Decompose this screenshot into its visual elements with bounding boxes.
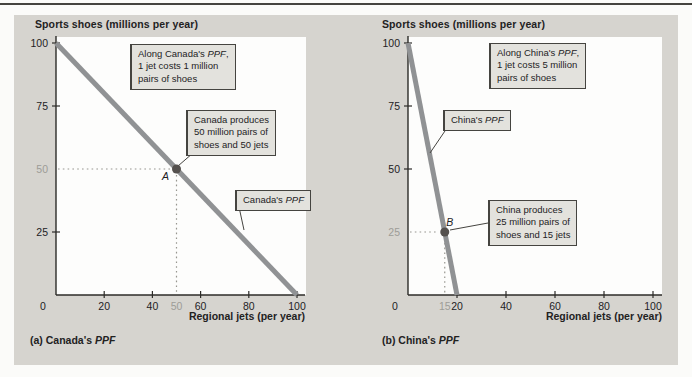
y-coordinate-label-25: 25 (388, 226, 400, 238)
textbook-figure-page: Sports shoes (millions per year) 2040608… (0, 0, 692, 377)
chart-canvas: 20406080100015507510025BAlong China's PP… (346, 15, 678, 365)
panel-caption-b: (b) China's PPF (382, 334, 459, 346)
point-B-dot (440, 228, 449, 237)
ppf-line-label: Canada's PPF (235, 190, 311, 211)
panel-caption-a: (a) Canada's PPF (30, 334, 115, 346)
x-axis-title: Regional jets (per year) (14, 310, 305, 322)
opportunity-cost-note: Along Canada's PPF,1 jet costs 1 million… (130, 44, 236, 90)
y-tick-label-75: 75 (388, 100, 400, 112)
ppf-line-label: China's PPF (443, 110, 511, 131)
page-top-rule (0, 3, 692, 5)
y-coordinate-label-50: 50 (36, 163, 48, 175)
production-note: China produces25 million pairs ofshoes a… (488, 200, 577, 246)
figure-panel: Sports shoes (millions per year) 2040608… (14, 15, 678, 365)
chart-china-ppf: Sports shoes (millions per year) 2040608… (346, 15, 678, 365)
y-tick-label-50: 50 (388, 163, 400, 175)
opportunity-cost-note: Along China's PPF,1 jet costs 5 millionp… (489, 43, 586, 89)
y-tick-label-25: 25 (36, 226, 48, 238)
production-note: Canada produces50 million pairs ofshoes … (186, 110, 276, 156)
y-tick-label-100: 100 (382, 37, 400, 49)
point-A-dot (172, 165, 181, 174)
point-B-label: B (446, 216, 453, 228)
y-tick-label-100: 100 (30, 37, 48, 49)
chart-canvas: 20406080100050257510050AAlong Canada's P… (14, 15, 346, 365)
x-axis-title: Regional jets (per year) (346, 310, 662, 322)
point-A-label: A (161, 170, 169, 182)
chart-canada-ppf: Sports shoes (millions per year) 2040608… (14, 15, 346, 365)
y-tick-label-75: 75 (36, 100, 48, 112)
